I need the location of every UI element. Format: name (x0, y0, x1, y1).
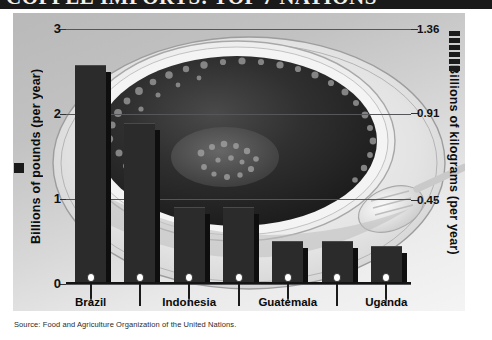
plot-area: 01230.450.911.36 (66, 29, 411, 284)
gridline (66, 29, 411, 30)
bar-pointer-head (284, 273, 292, 282)
bar[interactable] (75, 66, 106, 284)
bar-shadow (205, 214, 210, 285)
bar-pointer-head (382, 273, 390, 282)
gridline (66, 114, 411, 115)
bar-pointer-head (235, 273, 243, 282)
bar[interactable] (223, 208, 254, 285)
bar-pointer-head (136, 273, 144, 282)
bar-shadow (402, 253, 407, 284)
y-tick-label-right: 1.36 (417, 23, 439, 35)
source-note: Source: Food and Agriculture Organizatio… (14, 320, 236, 329)
chart-panel: Billions of pounds (per year) Billions o… (13, 13, 465, 311)
bar[interactable] (174, 208, 205, 285)
gridline (66, 199, 411, 200)
bar[interactable] (371, 247, 402, 284)
y-tick-label-left: 0 (54, 276, 61, 291)
bar[interactable] (322, 242, 353, 284)
page-title-strip: COFFEE IMPORTS: TOP 7 NATIONS (0, 0, 492, 9)
page-title: COFFEE IMPORTS: TOP 7 NATIONS (6, 0, 377, 9)
x-axis-baseline (66, 282, 411, 284)
square-marker-icon (14, 163, 24, 173)
y-tick-label-left: 3 (54, 21, 61, 36)
y-axis-left-title: Billions of pounds (per year) (29, 29, 43, 284)
bar[interactable] (272, 242, 303, 284)
bar-body (75, 65, 106, 284)
bar-shadow (254, 214, 259, 285)
bar[interactable] (124, 124, 155, 284)
bar-shadow (303, 248, 308, 284)
y-tick-label-left: 2 (54, 106, 61, 121)
bar-shadow (106, 72, 111, 284)
x-axis-label: Indonesia (162, 296, 216, 308)
bar-shadow (155, 130, 160, 284)
y-tick-label-right: 0.91 (417, 107, 439, 119)
bar-pointer-head (333, 273, 341, 282)
x-axis-labels: BrazilColombiaIndonesiaMexicoGuatemalaEt… (66, 296, 411, 311)
x-axis-label: Brazil (75, 296, 106, 308)
y-tick-label-left: 1 (54, 191, 61, 206)
x-axis-label: Uganda (365, 296, 407, 308)
x-axis-label: Guatemala (258, 296, 317, 308)
bar-body (124, 123, 155, 284)
bar-pointer-head (87, 273, 95, 282)
bar-shadow (353, 248, 358, 284)
stacked-bars-marker-icon (447, 31, 461, 89)
bar-pointer-head (185, 273, 193, 282)
y-tick-label-right: 0.45 (417, 193, 439, 205)
